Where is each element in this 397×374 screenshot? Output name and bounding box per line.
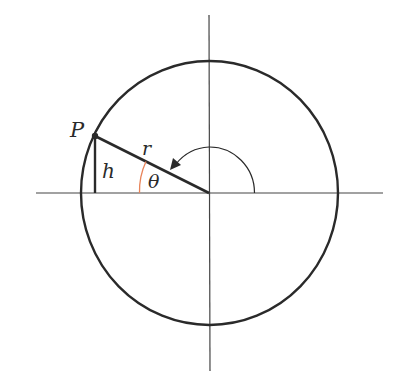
y-axis [209,15,210,371]
label-point-p: P [69,118,85,142]
label-radius-r: r [142,137,153,159]
label-angle-theta: θ [148,170,160,192]
unit-circle-diagram: P r h θ [0,0,397,374]
label-height-h: h [102,159,115,183]
diagram-canvas: P r h θ [0,0,397,374]
point-p-dot [92,133,98,139]
theta-angle-arc [139,162,146,194]
rotation-arc [176,147,255,193]
